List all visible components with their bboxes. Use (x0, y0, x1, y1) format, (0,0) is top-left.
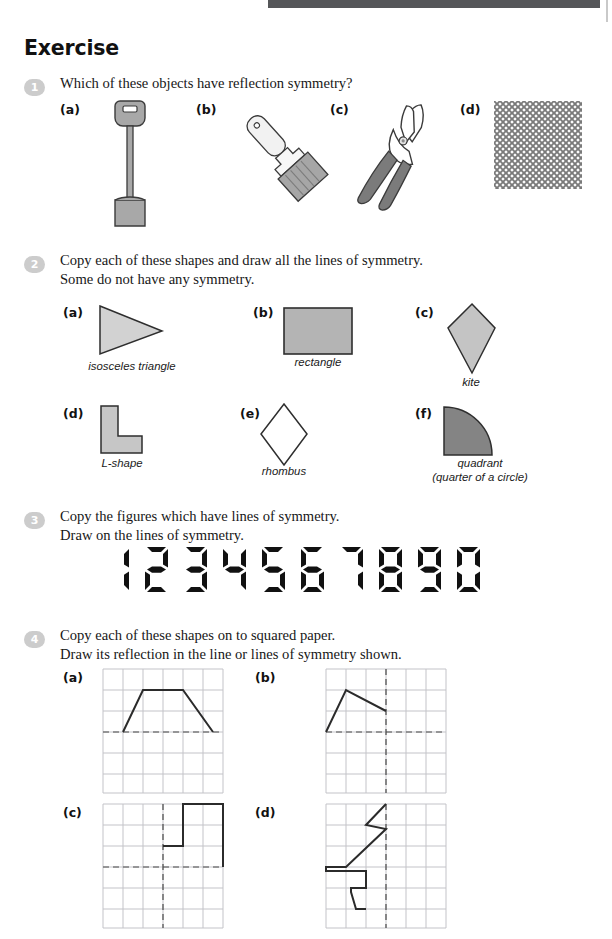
question-number-4: 4 (24, 631, 45, 648)
grid-4d (324, 802, 448, 930)
question-text-3: Copy the figures which have lines of sym… (60, 507, 580, 544)
question-text-2: Copy each of these shapes and draw all t… (60, 251, 580, 288)
question-number-3: 3 (24, 512, 45, 529)
question-number-2: 2 (24, 256, 45, 273)
question-2-part-d-label: (d) (63, 406, 83, 421)
question-1-part-d-label: (d) (460, 102, 480, 117)
l-shape (99, 404, 151, 456)
seven-segment-digit (145, 547, 168, 592)
question-2-part-b-label: (b) (253, 305, 273, 320)
seven-segment-digit (223, 549, 246, 590)
seven-segment-digit-row (106, 545, 496, 594)
l-shape-caption: L-shape (62, 457, 182, 471)
seven-segment-digit (379, 547, 402, 592)
grid-4a (101, 667, 225, 795)
question-1-part-b-label: (b) (196, 102, 216, 117)
page-edge-marker (606, 0, 608, 22)
rhombus-caption: rhombus (234, 465, 334, 479)
kite-shape (443, 302, 499, 376)
rectangle-caption: rectangle (258, 356, 378, 370)
scissors-icon (352, 96, 452, 216)
grid-4c (101, 802, 225, 930)
question-text-4: Copy each of these shapes on to squared … (60, 626, 600, 663)
spade-icon (100, 98, 160, 228)
seven-segment-digit (124, 549, 129, 590)
question-2-part-f-label: (f) (415, 406, 432, 421)
question-4-part-c-label: (c) (63, 805, 82, 820)
question-4-part-b-label: (b) (255, 670, 275, 685)
question-4-part-d-label: (d) (255, 805, 275, 820)
seven-segment-digit (301, 547, 324, 592)
kite-caption: kite (421, 376, 521, 390)
mesh-pattern-icon (494, 101, 582, 189)
seven-segment-digit (342, 547, 363, 590)
page-title: Exercise (24, 36, 119, 60)
grid-4b (324, 667, 448, 795)
question-1-part-a-label: (a) (60, 102, 80, 117)
question-4-part-a-label: (a) (63, 670, 83, 685)
rhombus-shape (256, 402, 312, 468)
question-text-1: Which of these objects have reflection s… (60, 74, 580, 93)
question-2-part-a-label: (a) (63, 305, 83, 320)
rectangle-shape (282, 306, 354, 356)
quadrant-shape (441, 404, 495, 458)
quadrant-caption: quadrant (quarter of a circle) (400, 457, 560, 484)
page-header-bar (268, 0, 600, 8)
paintbrush-icon (228, 98, 338, 208)
seven-segment-digit (262, 547, 285, 592)
seven-segment-digit (457, 547, 480, 592)
seven-segment-digit (186, 547, 207, 592)
question-number-1: 1 (24, 79, 45, 96)
isosceles-triangle-caption: isosceles triangle (62, 360, 202, 374)
question-2-part-c-label: (c) (415, 305, 434, 320)
seven-segment-digit (418, 547, 441, 592)
isosceles-triangle-shape (97, 303, 167, 357)
